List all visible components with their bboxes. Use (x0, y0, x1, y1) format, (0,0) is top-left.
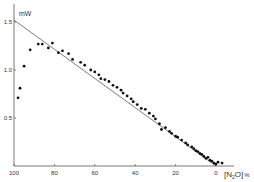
data-point (160, 128, 163, 131)
data-point (152, 115, 155, 118)
data-point (51, 42, 54, 45)
x-axis-title: [N2O]% (224, 170, 250, 180)
data-point (148, 112, 151, 115)
data-point (186, 143, 189, 146)
data-point (164, 126, 167, 129)
data-point (184, 142, 187, 145)
data-point (89, 69, 92, 72)
data-point (192, 147, 195, 150)
data-point (126, 95, 129, 98)
data-point (57, 51, 60, 54)
data-point (120, 89, 123, 92)
x-tick-label: 60 (91, 170, 98, 176)
x-tick-label: 40 (132, 170, 139, 176)
axis-labels: mW [N2O]% (19, 10, 250, 180)
x-tick-label: 20 (172, 170, 179, 176)
data-point (200, 153, 203, 156)
data-point (17, 96, 20, 99)
data-point (202, 155, 205, 158)
data-point (196, 150, 199, 153)
data-point (140, 107, 143, 110)
data-point (130, 97, 133, 100)
data-point (83, 64, 86, 67)
data-point (47, 47, 50, 50)
x-tick-label: 0 (214, 170, 218, 176)
data-point (67, 52, 70, 55)
x-tick-label: 80 (51, 170, 58, 176)
data-point (132, 100, 135, 103)
data-point (99, 77, 102, 80)
y-unit-label: mW (19, 10, 32, 17)
n2o-power-chart: 1008060402000.51.01.5 mW [N2O]% (0, 0, 254, 182)
data-point (122, 92, 125, 95)
data-point (158, 122, 161, 125)
data-point (190, 145, 193, 148)
data-point (112, 84, 115, 87)
data-point (170, 132, 173, 135)
x-tick-label: 100 (9, 170, 20, 176)
data-point (215, 163, 218, 166)
data-point (104, 78, 107, 81)
data-point (144, 108, 147, 111)
data-point (154, 118, 157, 121)
data-point (116, 86, 119, 89)
data-point (168, 130, 171, 133)
data-point (71, 58, 74, 61)
data-point (41, 43, 44, 46)
data-point (207, 156, 210, 159)
y-tick-label: 1.0 (4, 67, 13, 73)
data-point (217, 161, 220, 164)
y-tick-label: 0.5 (4, 115, 13, 121)
data-point (61, 49, 64, 52)
data-point (97, 73, 100, 76)
data-points (17, 42, 224, 166)
data-point (37, 43, 40, 46)
y-tick-label: 1.5 (4, 19, 13, 25)
data-point (23, 65, 26, 68)
data-point (180, 139, 183, 142)
data-point (221, 162, 224, 165)
data-point (93, 71, 96, 74)
data-point (79, 61, 82, 64)
data-point (176, 136, 179, 139)
data-point (108, 80, 111, 83)
data-point (211, 160, 214, 163)
axes: 1008060402000.51.01.5 (4, 4, 234, 176)
data-point (29, 48, 32, 51)
data-point (19, 87, 22, 90)
data-point (136, 103, 139, 106)
